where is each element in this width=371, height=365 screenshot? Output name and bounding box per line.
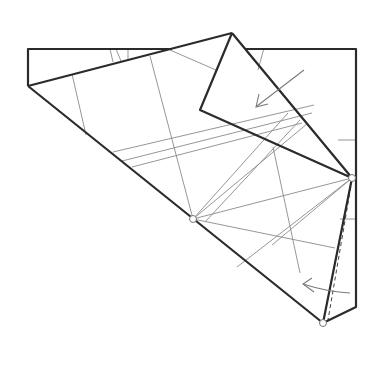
fold-left-arrow (303, 278, 350, 293)
left-crease-point (190, 216, 197, 223)
right-corner-point (349, 175, 356, 182)
bottom-corner-point (320, 320, 327, 327)
dashed-guides (247, 52, 352, 320)
paper-outline (28, 33, 356, 323)
reference-points (190, 175, 356, 327)
origami-diagram (0, 0, 371, 365)
fold-down-left-arrow (256, 70, 304, 107)
